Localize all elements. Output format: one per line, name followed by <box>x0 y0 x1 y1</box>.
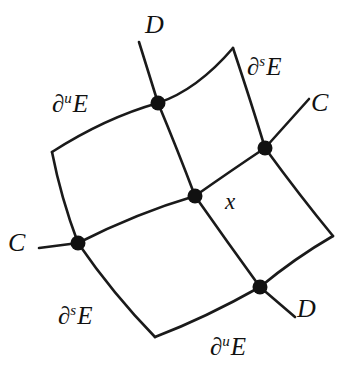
label-unstable-boundary-top-left: ∂uE <box>52 91 88 116</box>
extension-line-d-top <box>139 42 158 103</box>
partial-symbol: ∂ <box>52 90 64 117</box>
label-c-left: C <box>8 230 25 256</box>
superscript-s: s <box>259 53 265 69</box>
interior-curve-vertical <box>158 103 260 287</box>
node-center <box>188 189 203 204</box>
node-bottom-right <box>253 280 268 295</box>
set-letter-e: E <box>231 333 246 360</box>
label-d-top: D <box>145 12 164 38</box>
label-d-bottom-right: D <box>297 296 316 322</box>
interior-curve-horizontal <box>78 148 265 243</box>
label-point-x: x <box>225 190 235 213</box>
set-letter-e: E <box>73 90 88 117</box>
extension-line-c-right <box>265 99 309 148</box>
label-stable-boundary-top-right: ∂sE <box>247 54 281 79</box>
partial-symbol: ∂ <box>58 302 70 329</box>
node-left <box>71 236 86 251</box>
label-unstable-boundary-bottom: ∂uE <box>210 334 246 359</box>
set-letter-e: E <box>77 302 92 329</box>
superscript-s: s <box>70 302 76 318</box>
node-top <box>151 96 166 111</box>
label-c-right: C <box>311 90 328 116</box>
partial-symbol: ∂ <box>247 53 259 80</box>
superscript-u: u <box>64 90 72 106</box>
label-stable-boundary-bottom-left: ∂sE <box>58 303 92 328</box>
set-letter-e: E <box>266 53 281 80</box>
node-top-right <box>258 141 273 156</box>
superscript-u: u <box>222 333 230 349</box>
partial-symbol: ∂ <box>210 333 222 360</box>
